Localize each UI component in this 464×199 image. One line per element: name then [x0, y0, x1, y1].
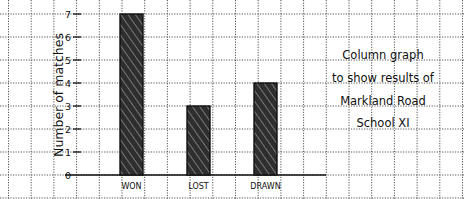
y-tick-label: 7	[65, 9, 71, 20]
labels: 01234567WONLOSTDRAWN	[65, 9, 281, 192]
bar-lost	[187, 106, 210, 175]
title-line: to show results of	[332, 71, 435, 85]
title-line: School XI	[356, 116, 409, 130]
bar-won	[120, 14, 143, 175]
column-graph: 01234567WONLOSTDRAWN Number of matches C…	[0, 0, 464, 199]
x-category-label: WON	[121, 182, 141, 191]
chart-title: Column graphto show results ofMarkland R…	[332, 48, 435, 130]
bar-drawn	[254, 83, 277, 175]
title-line: Markland Road	[340, 94, 426, 108]
y-tick-label: 0	[65, 170, 71, 181]
bars	[120, 14, 277, 175]
x-category-label: DRAWN	[250, 182, 280, 191]
x-category-label: LOST	[188, 182, 209, 191]
title-line: Column graph	[342, 48, 423, 62]
y-axis-label: Number of matches	[51, 33, 66, 157]
